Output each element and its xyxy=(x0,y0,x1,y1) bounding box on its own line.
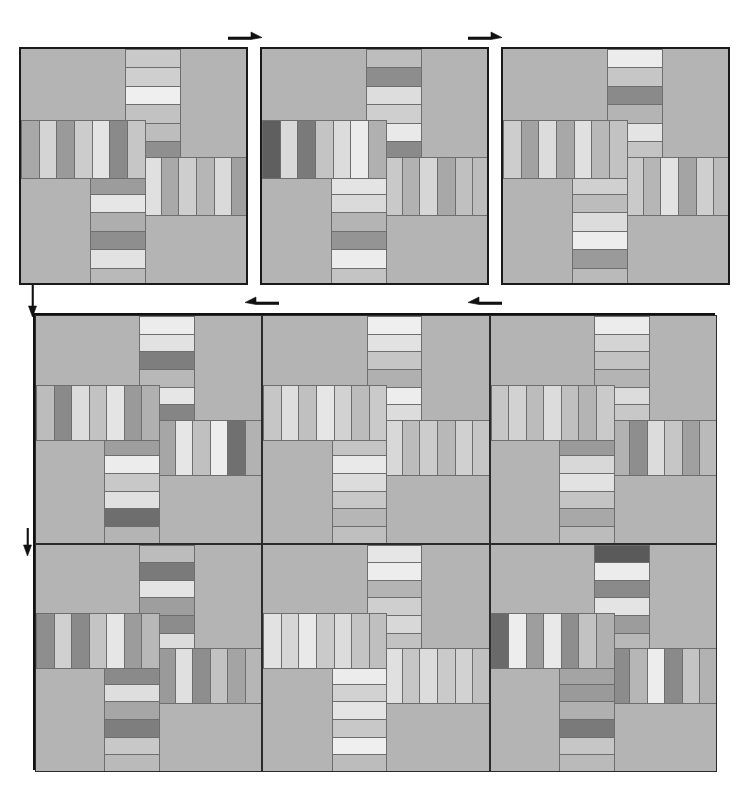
strip xyxy=(107,386,125,440)
strip xyxy=(299,614,317,668)
strip xyxy=(211,421,229,475)
strip xyxy=(332,195,386,213)
strip xyxy=(332,269,386,285)
strip xyxy=(573,269,627,285)
strip xyxy=(110,121,128,177)
strip xyxy=(335,386,353,440)
strip xyxy=(264,386,282,440)
strip xyxy=(333,685,387,703)
strip xyxy=(560,702,614,720)
strip xyxy=(560,527,614,544)
strip xyxy=(142,386,159,440)
strip xyxy=(333,456,387,474)
strip xyxy=(665,649,683,703)
strip xyxy=(368,563,422,581)
strip xyxy=(333,492,387,510)
strip xyxy=(105,667,159,685)
strip xyxy=(369,121,386,177)
strip xyxy=(317,614,335,668)
strip xyxy=(332,250,386,268)
strip xyxy=(700,421,717,475)
strip xyxy=(560,755,614,772)
strip xyxy=(560,720,614,738)
strip xyxy=(105,720,159,738)
strip xyxy=(105,509,159,527)
strip xyxy=(544,614,562,668)
strip xyxy=(91,269,145,285)
strip xyxy=(608,68,662,86)
strip xyxy=(333,474,387,492)
strip xyxy=(140,335,194,353)
strip xyxy=(648,649,666,703)
strip xyxy=(403,649,421,703)
strip xyxy=(162,158,180,214)
strip xyxy=(333,720,387,738)
strip xyxy=(107,614,125,668)
strip xyxy=(367,50,421,68)
strip xyxy=(420,649,438,703)
top-block-1-arm-left xyxy=(21,120,146,178)
strip xyxy=(105,702,159,720)
strip xyxy=(573,195,627,213)
strip xyxy=(197,158,215,214)
strip xyxy=(158,649,176,703)
strip xyxy=(57,121,75,177)
strip xyxy=(333,702,387,720)
top-block-1 xyxy=(19,47,248,285)
strip xyxy=(573,213,627,231)
strip xyxy=(105,456,159,474)
strip xyxy=(140,546,194,564)
strip xyxy=(473,158,489,214)
strip xyxy=(595,335,649,353)
strip xyxy=(72,614,90,668)
strip xyxy=(140,563,194,581)
strip xyxy=(158,421,176,475)
strip xyxy=(333,509,387,527)
strip xyxy=(473,649,490,703)
strip xyxy=(438,649,456,703)
arrow-top-2-icon xyxy=(468,30,502,41)
strip xyxy=(55,614,73,668)
strip xyxy=(560,456,614,474)
strip xyxy=(282,386,300,440)
strip xyxy=(679,158,697,214)
top-block-3-arm-left xyxy=(503,120,628,178)
strip xyxy=(332,177,386,195)
strip xyxy=(368,546,422,564)
strip xyxy=(573,250,627,268)
grid-cell-r2c1-arm-left xyxy=(36,613,160,669)
strip xyxy=(105,755,159,772)
strip xyxy=(55,386,73,440)
strip xyxy=(144,158,162,214)
strip xyxy=(193,421,211,475)
strip xyxy=(579,614,597,668)
strip xyxy=(91,177,145,195)
strip xyxy=(661,158,679,214)
strip xyxy=(140,352,194,370)
strip xyxy=(105,738,159,756)
strip xyxy=(527,614,545,668)
strip xyxy=(333,667,387,685)
strip xyxy=(75,121,93,177)
strip xyxy=(608,87,662,105)
strip xyxy=(385,421,403,475)
grid-cell-r2c3-arm-left xyxy=(491,613,615,669)
strip xyxy=(560,685,614,703)
strip xyxy=(333,527,387,544)
strip xyxy=(215,158,233,214)
strip xyxy=(352,614,370,668)
strip xyxy=(370,386,387,440)
strip xyxy=(595,563,649,581)
strip xyxy=(126,87,180,105)
strip xyxy=(504,121,522,177)
strip xyxy=(492,614,510,668)
strip xyxy=(263,121,281,177)
strip xyxy=(597,614,614,668)
arrow-top-1-icon xyxy=(228,30,262,41)
strip xyxy=(456,421,474,475)
strip xyxy=(140,581,194,599)
strip xyxy=(91,213,145,231)
big-grid-frame xyxy=(33,313,715,770)
strip xyxy=(610,121,627,177)
strip xyxy=(544,386,562,440)
